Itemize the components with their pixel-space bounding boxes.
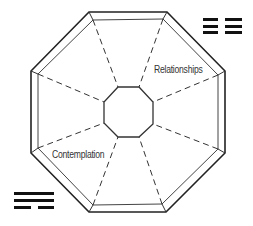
trigram-top-right-icon bbox=[203, 18, 242, 34]
bagua-diagram: Relationships Contemplation bbox=[0, 0, 253, 226]
label-relationships: Relationships bbox=[154, 63, 202, 75]
trigram-bottom-left-icon bbox=[14, 192, 54, 209]
outer-octagon bbox=[31, 12, 225, 212]
center-octagon bbox=[104, 87, 153, 137]
inner-octagon-ring bbox=[38, 19, 218, 205]
label-contemplation: Contemplation bbox=[52, 148, 104, 160]
